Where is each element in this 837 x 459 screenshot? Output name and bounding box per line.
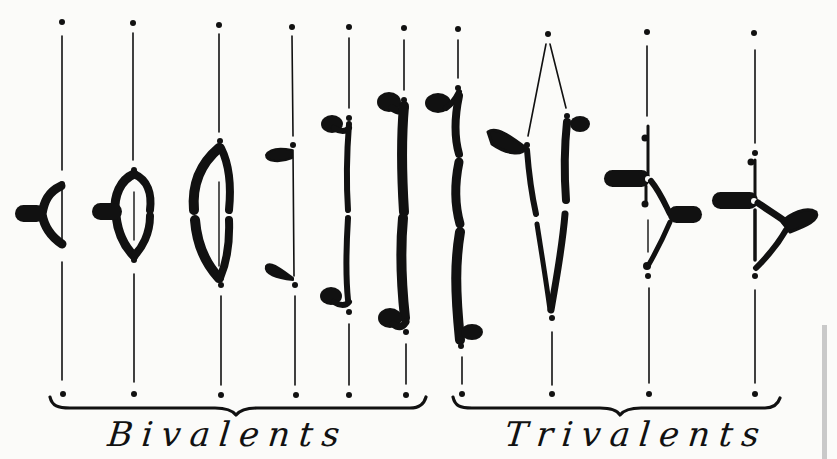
trivalent-1 [425, 26, 483, 397]
trivalent-2 [488, 31, 590, 397]
bivalent-5 [320, 24, 352, 398]
bivalent-1 [15, 19, 66, 397]
page-edge-strip [822, 325, 827, 459]
bivalent-3 [194, 22, 230, 398]
diagram-canvas [0, 0, 837, 459]
bivalent-2 [92, 20, 150, 397]
chromosome-figure: Bivalents Trivalents [0, 0, 837, 459]
bivalent-4 [266, 24, 299, 398]
trivalent-3 [604, 29, 702, 397]
trivalents-label: Trivalents [503, 414, 771, 454]
bivalent-6 [377, 25, 409, 398]
trivalents-brace [453, 397, 780, 415]
bivalents-brace [50, 397, 426, 415]
trivalent-4 [712, 30, 817, 397]
bivalents-label: Bivalents [106, 414, 351, 454]
